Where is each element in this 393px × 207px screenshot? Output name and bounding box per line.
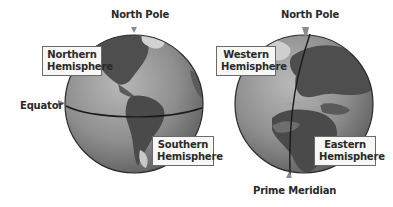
equator-label: Equator <box>20 100 63 111</box>
prime-meridian-arrow <box>286 172 292 178</box>
western-hemisphere-line1: Western <box>221 49 271 61</box>
eastern-hemisphere-line1: Eastern <box>319 139 371 151</box>
prime-meridian-label: Prime Meridian <box>253 185 336 196</box>
north-pole-label-left: North Pole <box>111 9 169 20</box>
hemispheres-diagram: North Pole Equator Northern Hemisphere S… <box>0 0 393 207</box>
northern-hemisphere-line2: Hemisphere <box>47 61 97 73</box>
eastern-hemisphere-line2: Hemisphere <box>319 151 371 163</box>
western-hemisphere-line2: Hemisphere <box>221 61 271 73</box>
north-pole-arrow-left <box>131 27 137 33</box>
northern-hemisphere-line1: Northern <box>47 49 97 61</box>
western-hemisphere-box: Western Hemisphere <box>216 46 276 76</box>
southern-hemisphere-line2: Hemisphere <box>157 151 209 163</box>
eastern-hemisphere-box: Eastern Hemisphere <box>314 136 376 166</box>
southern-hemisphere-line1: Southern <box>157 139 209 151</box>
northern-hemisphere-box: Northern Hemisphere <box>42 46 102 76</box>
north-pole-label-right: North Pole <box>281 9 339 20</box>
southern-hemisphere-box: Southern Hemisphere <box>152 136 214 166</box>
